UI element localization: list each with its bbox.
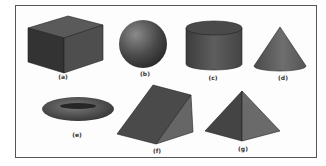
label-a: (a): [58, 73, 68, 80]
label-b: (b): [140, 70, 150, 77]
cone-shape: [254, 27, 306, 71]
label-f: (f): [153, 147, 161, 154]
label-g: (g): [238, 145, 248, 152]
label-e: (e): [72, 131, 82, 138]
label-c: (c): [208, 74, 217, 81]
torus-shape: [42, 97, 114, 121]
triangular-prism-shape: [117, 85, 193, 144]
cube-shape: [28, 16, 103, 73]
shapes-canvas: [0, 0, 326, 166]
label-d: (d): [278, 74, 288, 81]
cylinder-shape: [186, 21, 242, 70]
pyramid-shape: [205, 91, 280, 141]
sphere-shape: [119, 20, 167, 68]
